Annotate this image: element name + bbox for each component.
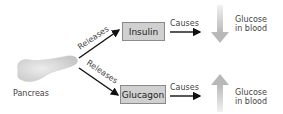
glucagon-box: Glucagon (120, 85, 166, 104)
pancreas-icon (18, 56, 78, 82)
outcome-line1: Glucose (235, 15, 267, 24)
causes-label-glucagon: Causes (170, 83, 199, 92)
decrease-arrow-icon (211, 5, 229, 43)
edge-label-releases-2: Releases (85, 58, 119, 85)
pancreas-label: Pancreas (13, 89, 49, 98)
outcome-line1: Glucose (235, 88, 267, 97)
insulin-box: Insulin (122, 22, 165, 41)
outcome-line2: in blood (235, 97, 267, 106)
increase-arrow-icon (211, 74, 229, 112)
outcome-line2: in blood (235, 24, 267, 33)
causes-label-insulin: Causes (170, 19, 199, 28)
outcome-glucose-decrease: Glucose in blood (235, 15, 267, 33)
outcome-glucose-increase: Glucose in blood (235, 88, 267, 106)
